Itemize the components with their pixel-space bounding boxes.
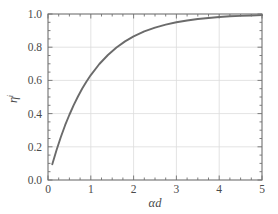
x-axis-label: αd (149, 196, 163, 210)
y-tick-label: 1.0 (28, 8, 43, 20)
y-tick-label: 0.0 (28, 174, 43, 186)
y-axis-label-subscript: i (6, 95, 15, 97)
x-tick-labels: 012345 (45, 183, 265, 195)
y-axis-label-group: η i (6, 95, 20, 103)
y-tick-label: 0.4 (28, 108, 43, 120)
chart-figure: 012345 0.00.20.40.60.81.0 αd η i (0, 0, 278, 214)
y-tick-label: 0.8 (28, 41, 43, 53)
x-tick-label: 2 (131, 183, 137, 195)
y-tick-labels: 0.00.20.40.60.81.0 (28, 8, 43, 186)
x-tick-label: 5 (259, 183, 265, 195)
x-tick-label: 3 (174, 183, 180, 195)
x-tick-label: 1 (88, 183, 94, 195)
y-tick-label: 0.6 (28, 74, 43, 86)
chart-canvas: 012345 0.00.20.40.60.81.0 αd η i (0, 0, 278, 214)
y-tick-label: 0.2 (28, 141, 43, 153)
plot-area-background (48, 14, 262, 180)
x-tick-label: 0 (45, 183, 51, 195)
x-tick-label: 4 (216, 183, 222, 195)
